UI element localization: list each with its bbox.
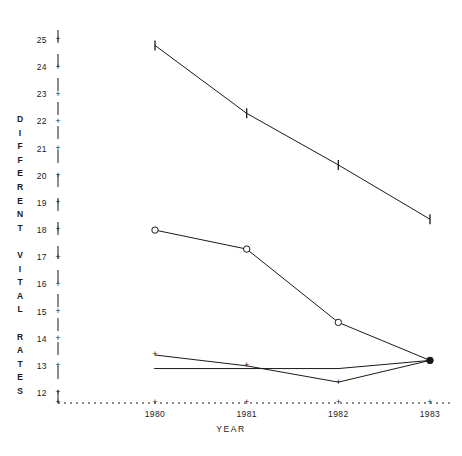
x-axis-tick-label: 1983 xyxy=(420,409,441,419)
y-axis-tick-labels: 2524232221201918171615141312 xyxy=(37,35,47,398)
y-axis-title-char: T xyxy=(17,277,23,287)
y-axis-tick: + xyxy=(55,90,60,100)
y-axis-tick-label: 15 xyxy=(37,307,47,317)
y-axis-title-char: D xyxy=(17,114,23,124)
series-dash-marker: ---- xyxy=(152,356,432,374)
plus-marker: + xyxy=(336,378,341,388)
y-axis-title-char: A xyxy=(17,345,23,355)
y-axis-tick-label: 17 xyxy=(37,252,47,262)
dash-marker: - xyxy=(244,364,249,374)
x-axis-title: YEAR xyxy=(216,424,246,434)
y-axis-tick-label: 20 xyxy=(37,171,47,181)
y-axis-tick: + xyxy=(55,307,60,317)
y-axis-title-char: I xyxy=(19,264,21,274)
y-axis-title-char: R xyxy=(17,332,23,342)
x-axis-tick: + xyxy=(427,398,432,408)
x-axis-tick-label: 1982 xyxy=(328,409,349,419)
x-axis-tick: + xyxy=(336,398,341,408)
y-axis-title-char: E xyxy=(17,168,23,178)
series-line xyxy=(155,45,430,219)
y-axis-title-char: T xyxy=(17,223,23,233)
y-axis-tick-label: 12 xyxy=(37,388,47,398)
y-axis-tick-label: 25 xyxy=(37,35,47,45)
y-axis-title-char: F xyxy=(17,155,22,165)
y-axis-tick-label: 22 xyxy=(37,116,47,126)
y-axis-tick-label: 18 xyxy=(37,225,47,235)
y-axis-tick-label: 13 xyxy=(37,361,47,371)
line-chart: ++++++++++++++ 2524232221201918171615141… xyxy=(0,0,462,456)
y-axis-title: DIFFERENTVITALRATES xyxy=(17,114,23,396)
y-axis-tick: + xyxy=(55,225,60,235)
x-axis-tick: + xyxy=(244,398,249,408)
y-axis-title-char: I xyxy=(19,128,21,138)
y-axis-tick: + xyxy=(55,280,60,290)
x-axis-tick: + xyxy=(152,398,157,408)
y-axis-tick: + xyxy=(55,144,60,154)
x-axis-tick-labels: 1980198119821983 xyxy=(145,409,441,419)
y-axis-tick: + xyxy=(55,361,60,371)
y-axis-tick: + xyxy=(55,117,60,127)
x-axis-tick-label: 1981 xyxy=(236,409,257,419)
x-axis-origin-tick: + xyxy=(55,398,60,408)
y-axis-title-char: E xyxy=(17,372,23,382)
y-axis-tick-label: 16 xyxy=(37,279,47,289)
data-series-group: ++++---- xyxy=(152,40,434,387)
series-circle-marker xyxy=(152,227,433,364)
y-axis-title-char: S xyxy=(17,386,23,396)
y-axis-tick: + xyxy=(55,198,60,208)
circle-marker xyxy=(335,319,341,325)
series-line xyxy=(155,360,430,368)
dash-marker: - xyxy=(336,364,341,374)
y-axis-title-char: N xyxy=(17,209,23,219)
y-axis-title-char: L xyxy=(17,304,22,314)
series-line xyxy=(155,230,430,360)
y-axis-title-char: T xyxy=(17,359,23,369)
y-axis-title-char: V xyxy=(17,250,23,260)
y-axis-tick-label: 14 xyxy=(37,334,47,344)
y-axis-tick-label: 21 xyxy=(37,144,47,154)
y-axis-title-char: E xyxy=(17,196,23,206)
y-axis-tick: + xyxy=(55,388,60,398)
y-axis-title-char: F xyxy=(17,141,22,151)
y-axis-tick: + xyxy=(55,35,60,45)
y-axis-tick: + xyxy=(55,171,60,181)
series-vertical-bar-marker xyxy=(155,40,430,224)
dash-marker: - xyxy=(152,364,157,374)
y-axis-tick-label: 24 xyxy=(37,62,47,72)
y-axis-tick-label: 19 xyxy=(37,198,47,208)
y-axis-title-char: R xyxy=(17,182,23,192)
circle-marker xyxy=(243,246,249,252)
x-axis: +++++ xyxy=(55,398,452,408)
y-axis-tick-label: 23 xyxy=(37,89,47,99)
y-axis-title-char: A xyxy=(17,291,23,301)
plus-marker: + xyxy=(152,350,157,360)
y-axis-tick: + xyxy=(55,63,60,73)
y-axis-tick: + xyxy=(55,334,60,344)
x-axis-tick-label: 1980 xyxy=(145,409,166,419)
chart-container: ++++++++++++++ 2524232221201918171615141… xyxy=(0,0,462,456)
y-axis: ++++++++++++++ xyxy=(55,30,60,403)
circle-marker xyxy=(152,227,158,233)
convergence-point-marker xyxy=(427,357,434,364)
y-axis-tick: + xyxy=(55,253,60,263)
